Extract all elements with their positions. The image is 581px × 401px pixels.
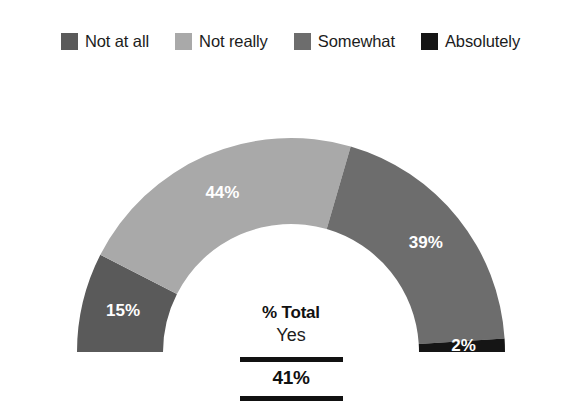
- chart-legend: Not at all Not really Somewhat Absolutel…: [0, 26, 581, 56]
- donut-gauge-area: 15% 44% 39% 2% % Total Yes 41%: [0, 58, 581, 397]
- legend-swatch-somewhat: [294, 33, 311, 50]
- slice-label-somewhat: 39%: [409, 233, 443, 252]
- legend-label-absolutely: Absolutely: [445, 33, 520, 50]
- slice-label-not-at-all: 15%: [106, 301, 140, 320]
- slice-label-absolutely: 2%: [451, 336, 476, 355]
- slice-label-not-really: 44%: [205, 183, 239, 202]
- legend-item-not-at-all[interactable]: Not at all: [61, 33, 149, 50]
- legend-label-not-at-all: Not at all: [85, 33, 149, 50]
- legend-label-not-really: Not really: [199, 33, 268, 50]
- legend-label-somewhat: Somewhat: [318, 33, 395, 50]
- gauge-center-divider-bottom: [240, 396, 343, 401]
- donut-svg: 15% 44% 39% 2%: [0, 58, 581, 397]
- donut-slice-not-really[interactable]: [100, 138, 350, 294]
- legend-item-somewhat[interactable]: Somewhat: [294, 33, 395, 50]
- legend-swatch-not-at-all: [61, 33, 78, 50]
- legend-item-absolutely[interactable]: Absolutely: [421, 33, 520, 50]
- legend-item-not-really[interactable]: Not really: [175, 33, 268, 50]
- legend-swatch-absolutely: [421, 33, 438, 50]
- legend-swatch-not-really: [175, 33, 192, 50]
